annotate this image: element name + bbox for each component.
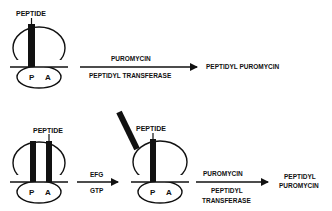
small-subunit	[17, 181, 61, 203]
p-site-label: P	[29, 73, 35, 82]
small-subunit	[138, 181, 182, 203]
factor-label: EFG	[90, 171, 103, 178]
peptidyl-trna-bar	[46, 141, 52, 182]
peptidyl-trna-bar	[150, 139, 156, 182]
deacylated-trna-bar	[30, 141, 36, 182]
translocation-arrow: EFG GTP	[77, 171, 118, 194]
p-site-label: P	[29, 188, 35, 197]
bottom-ribosome-pretranslocation: PEPTIDE P A	[10, 127, 68, 203]
a-site-label: A	[45, 188, 51, 197]
product-label-line2: PUROMYCIN	[279, 182, 319, 189]
peptide-label: PEPTIDE	[33, 127, 63, 134]
top-ribosome: PEPTIDE P A	[10, 10, 68, 88]
top-reaction-arrow: PUROMYCIN PEPTIDYL TRANSFERASE	[80, 55, 197, 79]
small-subunit	[17, 66, 61, 88]
reagent-label: PUROMYCIN	[203, 170, 243, 177]
a-site-label: A	[166, 188, 172, 197]
p-site-label: P	[150, 188, 156, 197]
peptide-label: PEPTIDE	[136, 125, 166, 132]
reagent-label: PUROMYCIN	[111, 55, 151, 62]
enzyme-label-line1: PEPTIDYL	[211, 187, 243, 194]
bottom-ribosome-posttranslocation: PEPTIDE P A	[119, 112, 189, 203]
peptidyl-trna-bar	[28, 24, 35, 67]
translation-diagram: PEPTIDE P A PUROMYCIN PEPTIDYL TRANSFERA…	[0, 0, 332, 211]
product-label-line1: PEPTIDYL	[284, 173, 316, 180]
enzyme-label: PEPTIDYL TRANSFERASE	[89, 72, 172, 79]
bottom-reaction-arrow: PUROMYCIN PEPTIDYL TRANSFERASE	[196, 170, 268, 204]
peptide-label: PEPTIDE	[16, 10, 46, 17]
product-label: PEPTIDYL PUROMYCIN	[206, 63, 280, 70]
enzyme-label-line2: TRANSFERASE	[202, 197, 251, 204]
ejected-trna-bar	[119, 112, 137, 149]
cofactor-label: GTP	[90, 187, 104, 194]
a-site-label: A	[45, 73, 51, 82]
